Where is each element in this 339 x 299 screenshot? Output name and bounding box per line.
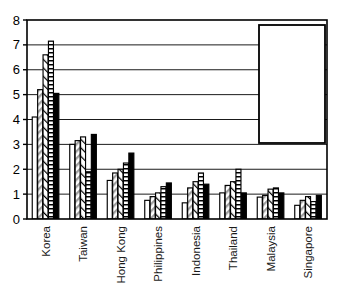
bar bbox=[268, 189, 273, 219]
y-axis-tick-label: 8 bbox=[13, 13, 20, 28]
bar bbox=[107, 180, 112, 219]
bar bbox=[54, 93, 59, 219]
y-axis-tick-label: 0 bbox=[13, 212, 20, 227]
bar bbox=[241, 193, 246, 219]
bar bbox=[295, 205, 300, 219]
y-axis-tick-label: 5 bbox=[13, 87, 20, 102]
bar bbox=[118, 169, 123, 219]
bar bbox=[145, 200, 150, 219]
bar bbox=[70, 144, 75, 219]
bar bbox=[123, 163, 128, 219]
bar bbox=[300, 200, 305, 219]
y-axis-tick-label: 2 bbox=[13, 162, 20, 177]
y-axis-ticks: 012345678 bbox=[13, 13, 27, 227]
y-axis-tick-label: 1 bbox=[13, 187, 20, 202]
bar bbox=[75, 141, 80, 219]
bar bbox=[161, 187, 166, 219]
bar bbox=[273, 188, 278, 219]
bar bbox=[48, 41, 53, 219]
bar bbox=[32, 117, 37, 219]
bar bbox=[306, 197, 311, 219]
bar bbox=[311, 202, 316, 219]
bar bbox=[166, 183, 171, 219]
category-label: Thailand bbox=[227, 226, 239, 270]
bar bbox=[225, 185, 230, 219]
bar bbox=[81, 137, 86, 219]
bar bbox=[43, 55, 48, 219]
chart-canvas: 012345678 KoreaTaiwanHong KongPhilippine… bbox=[0, 0, 339, 299]
bar bbox=[220, 193, 225, 219]
category-label: Hong Kong bbox=[115, 226, 127, 284]
category-label: Taiwan bbox=[77, 226, 89, 262]
bar bbox=[182, 203, 187, 219]
category-label: Philippines bbox=[152, 226, 164, 282]
bar bbox=[257, 197, 262, 219]
bar bbox=[193, 182, 198, 219]
category-label: Malaysia bbox=[265, 225, 277, 271]
bar bbox=[91, 134, 96, 219]
y-axis-tick-label: 3 bbox=[13, 137, 20, 152]
bar bbox=[188, 188, 193, 219]
legend-box bbox=[259, 25, 325, 143]
category-label: Korea bbox=[40, 225, 52, 256]
bar bbox=[86, 172, 91, 219]
legend bbox=[259, 25, 325, 143]
bar bbox=[316, 195, 321, 219]
bar bbox=[150, 197, 155, 219]
bar bbox=[198, 173, 203, 219]
bar bbox=[113, 173, 118, 219]
bar bbox=[231, 182, 236, 219]
category-label: Indonesia bbox=[190, 225, 202, 275]
y-axis-tick-label: 4 bbox=[13, 112, 20, 127]
bar bbox=[38, 90, 43, 219]
y-axis-tick-label: 6 bbox=[13, 62, 20, 77]
bar bbox=[279, 193, 284, 219]
category-label: Singapore bbox=[302, 226, 314, 278]
bar bbox=[263, 195, 268, 219]
y-axis-tick-label: 7 bbox=[13, 37, 20, 52]
bar-chart: 012345678 KoreaTaiwanHong KongPhilippine… bbox=[0, 0, 339, 299]
bar bbox=[204, 184, 209, 219]
bar bbox=[236, 169, 241, 219]
bar bbox=[156, 193, 161, 219]
bar bbox=[129, 153, 134, 219]
